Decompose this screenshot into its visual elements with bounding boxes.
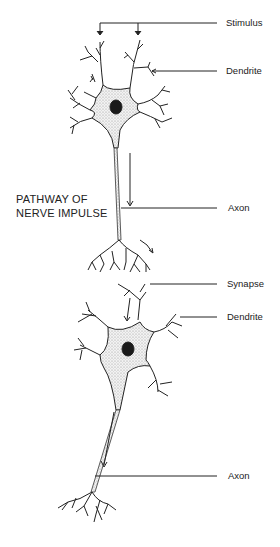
lower-axon-terminals <box>58 492 116 522</box>
upper-nucleus <box>110 100 122 114</box>
label-axon-top: Axon <box>228 202 250 213</box>
upper-axon <box>114 148 121 240</box>
neuron-diagram <box>0 0 280 547</box>
upper-cell-body <box>90 85 140 148</box>
label-synapse: Synapse <box>227 278 264 289</box>
lower-cell-body <box>100 322 154 410</box>
label-axon-bottom: Axon <box>228 470 250 481</box>
upper-axon-terminals <box>88 240 150 272</box>
lower-axon <box>91 410 120 492</box>
lower-nucleus <box>122 342 134 356</box>
title-line-1: PATHWAY OF <box>16 193 88 206</box>
label-dendrite-top: Dendrite <box>226 65 262 76</box>
stimulus-pointer <box>97 23 217 35</box>
title-line-2: NERVE IMPULSE <box>16 207 108 220</box>
label-stimulus: Stimulus <box>226 17 262 28</box>
label-dendrite-bottom: Dendrite <box>227 311 263 322</box>
